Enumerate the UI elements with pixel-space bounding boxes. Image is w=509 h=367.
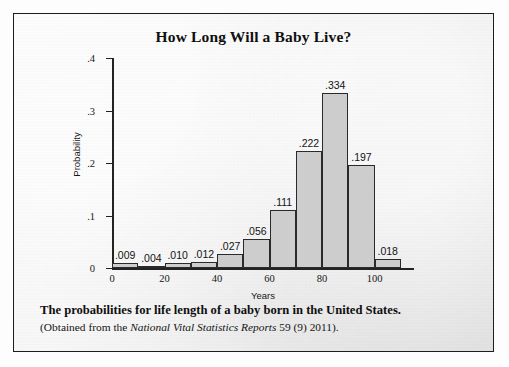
x-axis-tick-label: 40 [212, 273, 223, 284]
bar-value-label: .009 [115, 249, 135, 261]
bar [165, 263, 191, 268]
y-axis-tick-label: .2 [87, 158, 95, 169]
x-axis-tick-label: 20 [159, 273, 170, 284]
plot-area: 0.1.2.3.4 020406080100 .009.004.010.012.… [98, 54, 418, 282]
y-axis-tick-mark [106, 111, 112, 112]
bar [243, 239, 269, 268]
caption-block: The probabilities for life length of a b… [40, 302, 475, 335]
figure-page: How Long Will a Baby Live? 0.1.2.3.4 020… [0, 0, 509, 367]
x-axis-tick-label: 60 [264, 273, 275, 284]
y-axis-tick-mark [106, 216, 112, 217]
bar-value-label: .197 [351, 151, 371, 163]
figure-frame: How Long Will a Baby Live? 0.1.2.3.4 020… [13, 13, 494, 352]
x-axis-tick-label: 80 [317, 273, 328, 284]
bar [375, 259, 401, 268]
bar [191, 262, 217, 268]
bar [322, 93, 348, 268]
bar-value-label: .012 [194, 248, 214, 260]
bar [217, 254, 243, 268]
caption-source-text: (Obtained from the National Vital Statis… [40, 320, 475, 335]
y-axis-title: Probability [71, 132, 82, 176]
bar [112, 263, 138, 268]
y-axis-tick-mark [106, 268, 112, 269]
x-axis-title: Years [112, 290, 414, 301]
bar [296, 151, 322, 268]
y-axis-tick-label: .4 [87, 53, 95, 64]
bar-value-label: .004 [141, 252, 161, 264]
bar [138, 266, 164, 268]
caption-source-journal: National Vital Statistics Reports [130, 321, 276, 333]
y-axis-tick-mark [106, 58, 112, 59]
y-axis-tick-label: 0 [90, 263, 95, 274]
caption-source-suffix: 59 (9) 2011). [276, 321, 338, 333]
caption-main-text: The probabilities for life length of a b… [40, 302, 475, 318]
bar-value-label: .111 [273, 196, 292, 208]
bar-value-label: .027 [220, 240, 240, 252]
bar [270, 210, 296, 268]
bar-value-label: .222 [299, 137, 319, 149]
bar-value-label: .010 [167, 249, 187, 261]
bar-value-label: .018 [378, 245, 398, 257]
y-axis-tick-mark [106, 163, 112, 164]
caption-source-prefix: (Obtained from the [40, 321, 130, 333]
x-axis-line [112, 268, 414, 270]
x-axis-tick-label: 100 [367, 273, 383, 284]
y-axis-tick-label: .3 [87, 105, 95, 116]
x-axis-tick-label: 0 [109, 273, 114, 284]
y-axis-line [112, 58, 114, 270]
bar-value-label: .334 [325, 79, 345, 91]
bar-value-label: .056 [246, 225, 266, 237]
y-axis-tick-label: .1 [87, 210, 95, 221]
chart-title: How Long Will a Baby Live? [14, 28, 493, 46]
bar [348, 165, 374, 268]
